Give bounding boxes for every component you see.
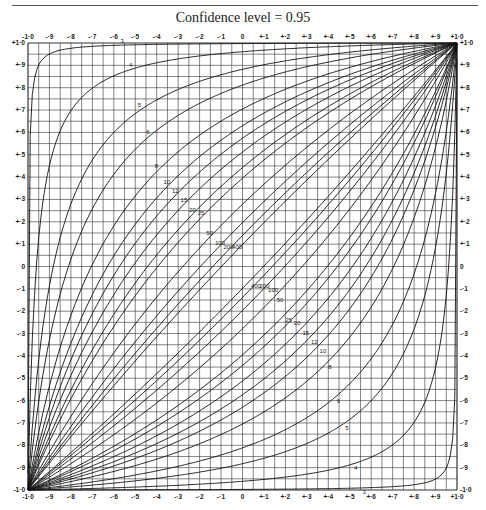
y-tick-left: -·5 (17, 374, 25, 381)
curve-label-upper: 400 (232, 244, 243, 250)
curve-label-lower: 20 (294, 320, 301, 326)
curve-label-lower: 10 (320, 348, 327, 354)
y-tick-right: +·3 (460, 195, 470, 202)
x-tick-top: -·4 (153, 33, 161, 40)
curve-label-upper: 6 (146, 129, 150, 135)
curve-label-upper: 20 (189, 207, 196, 213)
x-tick-top: +·2 (281, 33, 291, 40)
x-tick-top: -·2 (196, 33, 204, 40)
grid (28, 43, 457, 490)
curve-label-lower: 6 (337, 398, 341, 404)
y-tick-left: -·3 (17, 330, 25, 337)
curve-label-lower: 400 (251, 283, 262, 289)
y-tick-right: -·6 (460, 397, 468, 404)
curve-label-upper: 5 (138, 102, 142, 108)
y-tick-left: 0 (21, 263, 25, 270)
y-tick-right: +·4 (460, 173, 470, 180)
curve-label-upper: 10 (163, 179, 170, 185)
curve-label-lower: 50 (277, 297, 284, 303)
y-tick-left: -·8 (17, 441, 25, 448)
x-tick-bottom: -1·0 (22, 493, 34, 500)
y-tick-right: -·7 (460, 419, 468, 426)
x-tick-top: +·8 (409, 33, 419, 40)
x-tick-top: +·5 (345, 33, 355, 40)
x-tick-bottom: -·2 (196, 493, 204, 500)
x-tick-bottom: -·7 (88, 493, 96, 500)
y-tick-right: -1·0 (460, 486, 472, 493)
x-tick-top: +·7 (388, 33, 398, 40)
x-tick-bottom: -·3 (174, 493, 182, 500)
y-tick-left: +·8 (15, 84, 25, 91)
y-tick-right: -·3 (460, 330, 468, 337)
x-tick-bottom: +·5 (345, 493, 355, 500)
x-tick-top: +·3 (302, 33, 312, 40)
x-tick-bottom: -·4 (153, 493, 161, 500)
x-tick-top: +·9 (431, 33, 441, 40)
curve-label-upper: 4 (129, 62, 133, 68)
y-tick-right: +·5 (460, 151, 470, 158)
curve-label-upper: 25 (198, 210, 205, 216)
x-tick-bottom: +·7 (388, 493, 398, 500)
y-tick-left: +1·0 (12, 39, 26, 46)
y-tick-left: -·6 (17, 397, 25, 404)
y-tick-right: -·4 (460, 352, 468, 359)
x-tick-bottom: -·8 (67, 493, 75, 500)
y-tick-left: -·4 (17, 352, 25, 359)
curve-label-lower: 200 (260, 283, 271, 289)
y-tick-left: +·1 (15, 240, 25, 247)
y-tick-right: +·8 (460, 84, 470, 91)
x-tick-bottom: +·4 (324, 493, 334, 500)
curve-label-lower: 12 (311, 339, 318, 345)
curve-label-lower: 4 (354, 465, 358, 471)
x-tick-bottom: -·6 (110, 493, 118, 500)
curve-label-lower: 5 (345, 425, 349, 431)
y-tick-right: -·5 (460, 374, 468, 381)
y-tick-left: +·9 (15, 61, 25, 68)
curve-label-lower: 15 (302, 330, 309, 336)
x-tick-bottom: -·9 (45, 493, 53, 500)
y-tick-left: -·7 (17, 419, 25, 426)
y-tick-left: +·6 (15, 128, 25, 135)
x-tick-top: +·6 (366, 33, 376, 40)
x-tick-top: -·9 (45, 33, 53, 40)
y-tick-left: +·4 (15, 173, 25, 180)
y-tick-left: +·3 (15, 195, 25, 202)
x-tick-bottom: +·1 (259, 493, 269, 500)
y-tick-right: +·6 (460, 128, 470, 135)
curve-label-upper: 8 (155, 163, 159, 169)
y-tick-left: +·7 (15, 106, 25, 113)
y-tick-right: +·2 (460, 218, 470, 225)
x-tick-bottom: +·3 (302, 493, 312, 500)
x-tick-top: -·8 (67, 33, 75, 40)
x-tick-bottom: 0 (241, 493, 245, 500)
x-tick-top: 0 (241, 33, 245, 40)
x-tick-top: +·1 (259, 33, 269, 40)
x-tick-top: -·7 (88, 33, 96, 40)
y-tick-right: +1·0 (460, 39, 474, 46)
curve-label-upper: 15 (181, 197, 188, 203)
y-tick-right: +·7 (460, 106, 470, 113)
curve-label-upper: 12 (172, 188, 179, 194)
x-tick-top: -·6 (110, 33, 118, 40)
y-tick-right: +·9 (460, 61, 470, 68)
x-tick-top: -·1 (217, 33, 225, 40)
y-tick-right: -·9 (460, 464, 468, 471)
y-tick-right: +·1 (460, 240, 470, 247)
y-tick-right: -·8 (460, 441, 468, 448)
y-tick-left: -·2 (17, 307, 25, 314)
curve-label-lower: 25 (285, 317, 292, 323)
x-tick-top: +·4 (324, 33, 334, 40)
confidence-chart: -1·0-·9-·8-·7-·6-·5-·4-·3-·2-·10+·1+·2+·… (0, 0, 486, 510)
y-tick-right: 0 (460, 263, 464, 270)
curve-label-lower: 100 (268, 287, 279, 293)
x-tick-bottom: +·2 (281, 493, 291, 500)
x-tick-bottom: +1·0 (450, 493, 464, 500)
x-tick-bottom: +·8 (409, 493, 419, 500)
x-tick-top: -·5 (131, 33, 139, 40)
x-tick-bottom: +·9 (431, 493, 441, 500)
x-tick-bottom: +·6 (366, 493, 376, 500)
x-tick-top: -·3 (174, 33, 182, 40)
y-tick-left: -·9 (17, 464, 25, 471)
y-tick-right: -·1 (460, 285, 468, 292)
y-tick-left: -1·0 (13, 486, 25, 493)
